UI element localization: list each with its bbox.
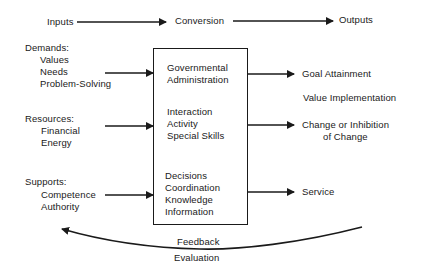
demands-title: Demands: (25, 42, 69, 54)
supports-title: Supports: (25, 176, 67, 188)
evaluation-label: Evaluation (174, 252, 219, 264)
conversion-line: Knowledge (165, 194, 213, 206)
header-outputs: Outputs (339, 14, 373, 26)
demands-item: Needs (40, 66, 68, 78)
conversion-line: Administration (167, 74, 229, 86)
conversion-line: Governmental (167, 62, 228, 74)
header-conversion: Conversion (175, 15, 224, 27)
feedback-label: Feedback (177, 236, 220, 248)
resources-title: Resources: (25, 113, 74, 125)
output-change-line2: of Change (323, 131, 368, 143)
supports-item: Authority (41, 201, 79, 213)
demands-item: Values (40, 54, 69, 66)
output-service: Service (302, 186, 334, 198)
conversion-line: Interaction (167, 106, 212, 118)
demands-item: Problem-Solving (40, 78, 111, 90)
output-goal-attainment: Goal Attainment (302, 68, 371, 80)
supports-item: Competence (41, 189, 96, 201)
header-inputs: Inputs (47, 16, 73, 28)
output-value-implementation: Value Implementation (303, 92, 396, 104)
conversion-line: Decisions (165, 170, 207, 182)
conversion-line: Activity (167, 118, 198, 130)
output-change-line1: Change or Inhibition (302, 119, 389, 131)
conversion-line: Information (165, 206, 214, 218)
resources-item: Financial (41, 125, 80, 137)
resources-item: Energy (41, 137, 72, 149)
conversion-line: Special Skills (167, 130, 224, 142)
conversion-line: Coordination (165, 182, 220, 194)
